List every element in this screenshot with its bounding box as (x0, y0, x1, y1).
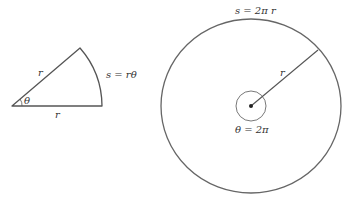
sector-arc-label: s = rθ (106, 69, 137, 80)
circle-figure: r θ = 2π s = 2π r (161, 5, 341, 193)
center-point (249, 104, 253, 108)
circle-radius-line (251, 50, 318, 106)
arc-length-diagram: r r θ s = rθ r θ = 2π s = 2π r (0, 0, 345, 200)
circle-arc-label: s = 2π r (235, 5, 277, 16)
sector-base-label: r (55, 109, 61, 120)
sector-radius-label: r (38, 67, 44, 78)
circle-radius-label: r (280, 67, 286, 78)
sector-angle-label: θ (24, 95, 30, 106)
circle-angle-label: θ = 2π (235, 124, 269, 135)
sector-figure: r r θ s = rθ (12, 48, 137, 120)
sector-angle-arc (20, 99, 22, 106)
